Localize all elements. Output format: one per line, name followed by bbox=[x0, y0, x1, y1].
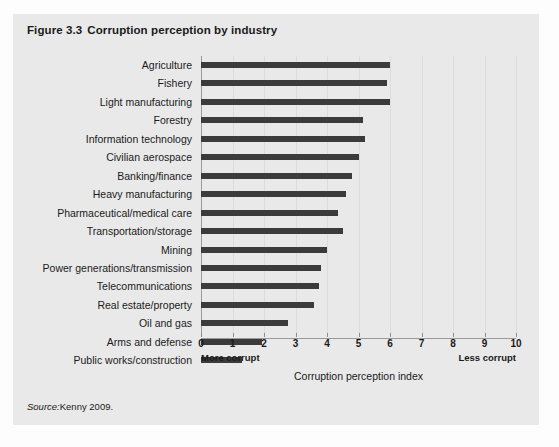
bar bbox=[201, 62, 390, 68]
bar bbox=[201, 191, 346, 197]
bar bbox=[201, 154, 359, 160]
x-axis-title: Corruption perception index bbox=[201, 370, 516, 382]
bar-row: Light manufacturing bbox=[201, 93, 516, 111]
bar-row: Agriculture bbox=[201, 56, 516, 74]
bar-row: Civilian aerospace bbox=[201, 148, 516, 166]
bar-row: Pharmaceutical/medical care bbox=[201, 204, 516, 222]
bar-row: Fishery bbox=[201, 74, 516, 92]
x-axis-tick-mark bbox=[422, 333, 423, 337]
bar-row: Mining bbox=[201, 241, 516, 259]
gridline bbox=[516, 56, 517, 336]
more-corrupt-label: More corrupt bbox=[201, 352, 260, 363]
bar-category-label: Pharmaceutical/medical care bbox=[57, 204, 192, 222]
x-axis-tick-label: 4 bbox=[324, 338, 330, 349]
figure-number: Figure 3.3 bbox=[27, 24, 82, 36]
bar-row: Power generations/transmission bbox=[201, 259, 516, 277]
figure-title-text: Corruption perception by industry bbox=[87, 24, 277, 36]
bar-row: Telecommunications bbox=[201, 277, 516, 295]
bar-row: Information technology bbox=[201, 130, 516, 148]
x-axis-tick-mark bbox=[296, 333, 297, 337]
bar-category-label: Light manufacturing bbox=[100, 93, 192, 111]
chart-plot-area: AgricultureFisheryLight manufacturingFor… bbox=[201, 56, 516, 336]
x-axis-tick-label: 0 bbox=[198, 338, 204, 349]
bar bbox=[201, 228, 343, 234]
bar bbox=[201, 283, 319, 289]
x-axis-tick-mark bbox=[327, 333, 328, 337]
x-axis-tick-mark bbox=[233, 333, 234, 337]
x-axis-tick-label: 3 bbox=[293, 338, 299, 349]
bar-row: Banking/finance bbox=[201, 167, 516, 185]
bar bbox=[201, 136, 365, 142]
x-axis-tick-mark bbox=[516, 333, 517, 337]
bar bbox=[201, 320, 288, 326]
x-axis-tick-mark bbox=[359, 333, 360, 337]
source-note: Source:Kenny 2009. bbox=[27, 401, 113, 412]
x-axis-tick-label: 7 bbox=[419, 338, 425, 349]
x-axis-tick-mark bbox=[390, 333, 391, 337]
bar bbox=[201, 247, 327, 253]
less-corrupt-label: Less corrupt bbox=[458, 352, 516, 363]
bar bbox=[201, 117, 363, 123]
x-axis-tick-label: 10 bbox=[510, 338, 521, 349]
x-axis-tick-label: 1 bbox=[230, 338, 236, 349]
bar-category-label: Arms and defense bbox=[107, 333, 192, 351]
x-axis-tick-label: 6 bbox=[387, 338, 393, 349]
bar bbox=[201, 173, 352, 179]
bar-row: Forestry bbox=[201, 111, 516, 129]
x-axis-tick-mark bbox=[485, 333, 486, 337]
bar-category-label: Mining bbox=[161, 241, 192, 259]
bar-category-label: Telecommunications bbox=[97, 277, 192, 295]
bar-category-label: Heavy manufacturing bbox=[93, 185, 192, 203]
bar bbox=[201, 80, 387, 86]
x-axis-tick-mark bbox=[453, 333, 454, 337]
figure-title: Figure 3.3Corruption perception by indus… bbox=[27, 24, 277, 36]
bar-category-label: Transportation/storage bbox=[87, 222, 192, 240]
bar-category-label: Real estate/property bbox=[97, 296, 192, 314]
bar-category-label: Public works/construction bbox=[74, 351, 192, 369]
figure-container: Figure 3.3Corruption perception by indus… bbox=[0, 0, 559, 447]
bar-category-label: Civilian aerospace bbox=[106, 148, 192, 166]
x-axis-tick-mark bbox=[201, 333, 202, 337]
bar bbox=[201, 265, 321, 271]
source-label: Source: bbox=[27, 401, 60, 412]
bar bbox=[201, 210, 338, 216]
bar-category-label: Oil and gas bbox=[139, 314, 192, 332]
bar-row: Heavy manufacturing bbox=[201, 185, 516, 203]
x-axis-tick-label: 8 bbox=[450, 338, 456, 349]
x-axis-tick-label: 2 bbox=[261, 338, 267, 349]
bar bbox=[201, 302, 314, 308]
bar-category-label: Forestry bbox=[153, 111, 192, 129]
x-axis-tick-label: 5 bbox=[356, 338, 362, 349]
bar-row: Real estate/property bbox=[201, 296, 516, 314]
x-axis-tick-mark bbox=[264, 333, 265, 337]
source-text: Kenny 2009. bbox=[60, 401, 113, 412]
bar bbox=[201, 99, 390, 105]
bar-category-label: Fishery bbox=[158, 74, 192, 92]
x-axis-tick-label: 9 bbox=[482, 338, 488, 349]
bar-row: Oil and gas bbox=[201, 314, 516, 332]
bar-category-label: Information technology bbox=[86, 130, 192, 148]
bar-row: Transportation/storage bbox=[201, 222, 516, 240]
bar-category-label: Agriculture bbox=[142, 56, 192, 74]
x-axis-tick-row: 012345678910 bbox=[201, 338, 516, 352]
bar-category-label: Power generations/transmission bbox=[43, 259, 192, 277]
bar-category-label: Banking/finance bbox=[117, 167, 192, 185]
